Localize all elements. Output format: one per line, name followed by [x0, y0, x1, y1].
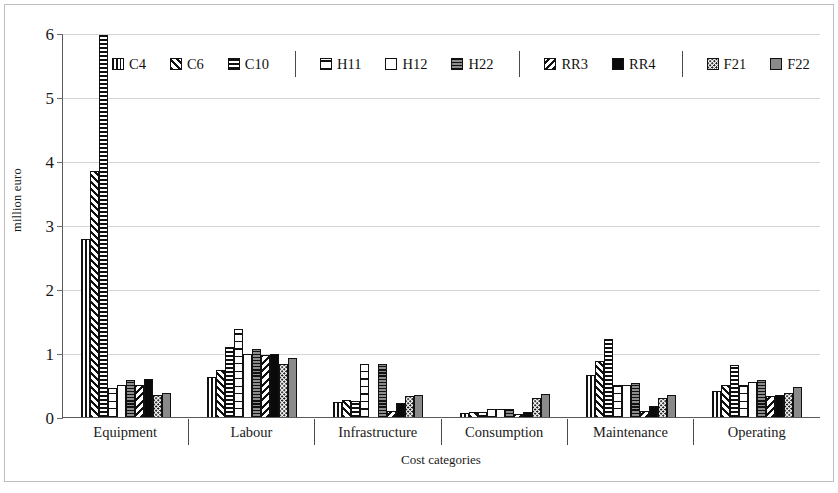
bar	[766, 396, 775, 417]
legend-item[interactable]: H11	[320, 57, 361, 72]
bar	[532, 398, 541, 417]
chart-legend: C4C6C10H11H12H22RR3RR4F21F22	[112, 52, 834, 76]
legend-swatch-icon	[170, 58, 182, 70]
legend-swatch-icon	[707, 58, 719, 70]
bar	[784, 393, 793, 417]
bar	[378, 364, 387, 417]
legend-swatch-icon	[544, 58, 556, 70]
bar	[351, 401, 360, 417]
bar	[279, 364, 288, 417]
x-tick-label: Operating	[694, 424, 820, 441]
bar	[288, 358, 297, 417]
bar	[396, 403, 405, 417]
legend-swatch-icon	[320, 58, 332, 70]
bar	[757, 380, 766, 417]
bar	[739, 385, 748, 417]
bar	[712, 391, 721, 417]
legend-item[interactable]: RR3	[544, 57, 588, 72]
bar	[514, 414, 523, 417]
legend-divider	[519, 51, 520, 77]
bar	[207, 377, 216, 417]
bar	[126, 380, 135, 417]
bar-group	[442, 34, 568, 417]
bar	[523, 412, 532, 417]
bar	[721, 385, 730, 417]
legend-item[interactable]: C10	[228, 57, 269, 72]
y-tick-label: 6	[46, 26, 55, 43]
legend-swatch-icon	[612, 58, 624, 70]
bar	[153, 395, 162, 417]
bar	[405, 396, 414, 417]
bar	[342, 400, 351, 417]
bar	[135, 385, 144, 417]
bar	[333, 402, 342, 417]
y-tick-label: 0	[46, 410, 55, 427]
bar	[261, 355, 270, 417]
legend-item[interactable]: H22	[451, 57, 493, 72]
legend-label: F21	[724, 57, 747, 72]
x-tick-label: Equipment	[62, 424, 188, 441]
bar	[586, 375, 595, 417]
bar-groups	[63, 34, 820, 417]
bar	[117, 385, 126, 417]
x-tick-label: Labour	[188, 424, 314, 441]
legend-swatch-icon	[770, 58, 782, 70]
y-axis-title: million euro	[10, 168, 25, 232]
bar	[90, 171, 99, 417]
bar	[793, 387, 802, 417]
bar	[748, 382, 757, 417]
y-tick-label: 3	[46, 218, 55, 235]
plot-area: 0123456	[62, 34, 820, 418]
bar	[216, 370, 225, 417]
bar	[622, 385, 631, 417]
bar	[144, 379, 153, 417]
bar	[99, 35, 108, 417]
legend-item[interactable]: F22	[770, 57, 810, 72]
legend-item[interactable]: H12	[385, 57, 427, 72]
chart-figure: million euro 0123456 C4C6C10H11H12H22RR3…	[0, 0, 838, 493]
legend-label: RR3	[561, 57, 588, 72]
bar	[505, 409, 514, 417]
bar	[234, 329, 243, 417]
legend-divider	[682, 51, 683, 77]
y-tick-label: 1	[46, 346, 55, 363]
bar	[613, 385, 622, 417]
bar	[487, 409, 496, 417]
bar	[162, 393, 171, 417]
bar	[360, 364, 369, 417]
legend-item[interactable]: C6	[170, 57, 204, 72]
bar	[252, 349, 261, 417]
x-axis-tick-labels: EquipmentLabourInfrastructureConsumption…	[62, 424, 820, 441]
legend-label: H11	[337, 57, 361, 72]
bar-group	[694, 34, 820, 417]
bar-group	[189, 34, 315, 417]
bar	[108, 388, 117, 417]
bar	[414, 395, 423, 417]
bar	[730, 365, 739, 417]
x-tick-label: Consumption	[441, 424, 567, 441]
bar	[667, 395, 676, 417]
legend-swatch-icon	[451, 58, 463, 70]
legend-label: H12	[402, 57, 427, 72]
y-tick-label: 2	[46, 282, 55, 299]
bar	[595, 361, 604, 417]
bar	[243, 354, 252, 417]
legend-swatch-icon	[112, 58, 124, 70]
bar	[631, 383, 640, 417]
legend-label: H22	[468, 57, 493, 72]
bar	[496, 409, 505, 417]
legend-item[interactable]: F21	[707, 57, 747, 72]
legend-label: C6	[187, 57, 204, 72]
legend-label: C10	[245, 57, 269, 72]
y-tick-mark	[57, 418, 63, 419]
bar	[478, 412, 487, 417]
legend-item[interactable]: RR4	[612, 57, 656, 72]
bar	[658, 398, 667, 417]
x-tick-label: Maintenance	[567, 424, 693, 441]
legend-label: RR4	[629, 57, 656, 72]
legend-swatch-icon	[228, 58, 240, 70]
legend-item[interactable]: C4	[112, 57, 146, 72]
bar	[387, 411, 396, 417]
bar	[81, 239, 90, 417]
bar	[460, 413, 469, 417]
